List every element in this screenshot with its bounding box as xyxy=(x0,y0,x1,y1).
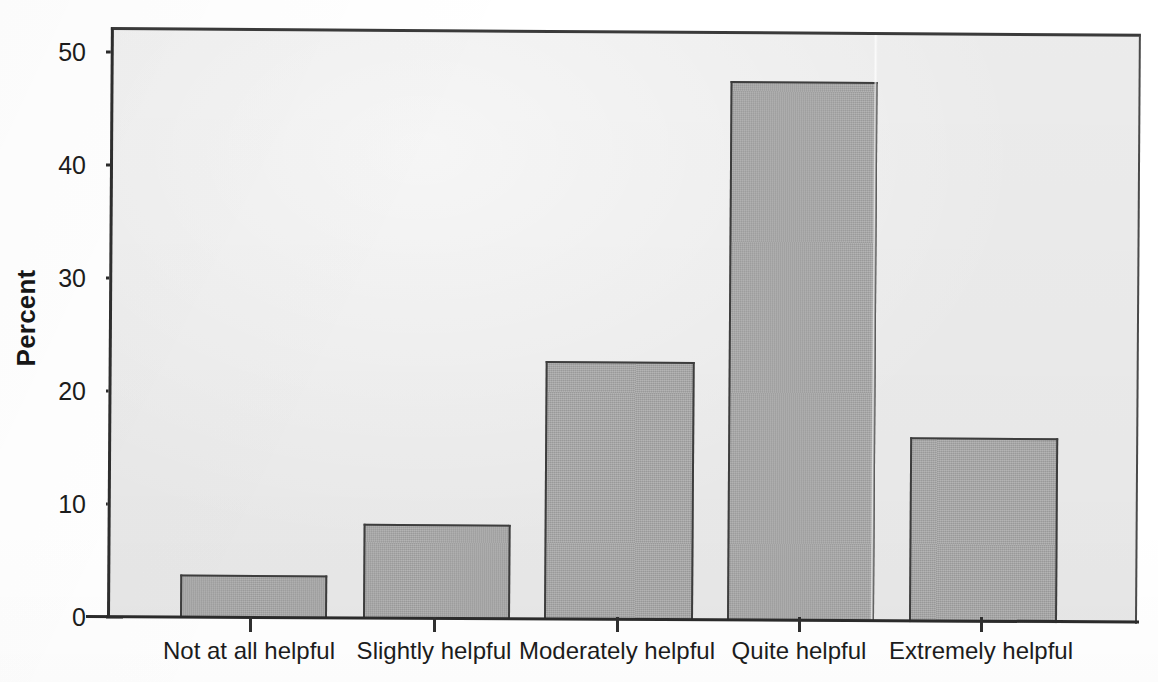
bar-chart-figure: Percent 0 10 20 30 40 50 xyxy=(0,0,1158,682)
bar-texture xyxy=(546,363,693,621)
y-tick-label-30: 30 xyxy=(40,264,86,293)
x-tick-mark-0 xyxy=(249,617,252,632)
y-axis-tick-labels: 0 10 20 30 40 50 xyxy=(16,0,86,682)
y-tick-label-10: 10 xyxy=(40,490,86,519)
x-tick-mark-3 xyxy=(798,617,801,632)
bar-extremely-helpful xyxy=(909,437,1058,623)
bar-texture xyxy=(729,83,876,622)
x-tick-label-not-at-all-helpful: Not at all helpful xyxy=(163,637,335,665)
plot-area xyxy=(107,27,1141,624)
x-tick-mark-4 xyxy=(980,617,983,632)
bar-slightly-helpful xyxy=(363,523,511,619)
bar-moderately-helpful xyxy=(544,361,695,621)
x-tick-mark-1 xyxy=(433,617,436,632)
y-tick-label-0: 0 xyxy=(40,603,86,632)
x-tick-label-moderately-helpful: Moderately helpful xyxy=(519,637,715,665)
y-tick-label-20: 20 xyxy=(40,377,86,406)
bar-texture xyxy=(182,576,325,618)
y-tick-label-40: 40 xyxy=(40,151,86,180)
bar-texture xyxy=(365,525,509,619)
x-tick-label-slightly-helpful: Slightly helpful xyxy=(357,637,512,665)
bar-not-at-all-helpful xyxy=(180,574,327,618)
bar-texture xyxy=(911,439,1056,623)
x-tick-mark-2 xyxy=(616,617,619,632)
y-tick-label-50: 50 xyxy=(40,38,86,67)
x-tick-label-quite-helpful: Quite helpful xyxy=(732,637,867,665)
bar-quite-helpful xyxy=(727,81,878,622)
x-tick-label-extremely-helpful: Extremely helpful xyxy=(889,637,1073,665)
